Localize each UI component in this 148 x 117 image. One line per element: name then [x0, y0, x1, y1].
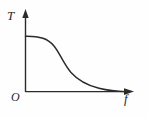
- x-axis-label: f: [124, 92, 128, 105]
- graph-figure: T O f: [0, 0, 148, 117]
- decay-curve: [26, 36, 127, 91]
- y-axis-label: T: [7, 9, 14, 22]
- origin-label: O: [11, 91, 20, 103]
- arrow-up-icon: [22, 9, 28, 18]
